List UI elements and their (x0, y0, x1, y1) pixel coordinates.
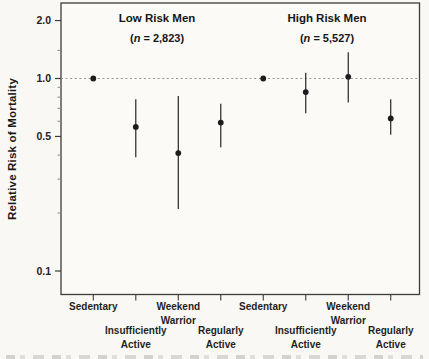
data-point (345, 74, 351, 80)
x-category-label: Sedentary (239, 301, 288, 312)
data-point (260, 76, 266, 82)
group-title: Low Risk Men (119, 12, 196, 24)
y-axis-tick-label: 0.1 (36, 265, 51, 277)
x-category-label: Active (121, 339, 151, 350)
x-category-label: Active (376, 339, 406, 350)
data-point (175, 150, 181, 156)
data-point (303, 89, 309, 95)
x-category-label: Weekend (156, 301, 200, 312)
chart-svg: 2.01.00.50.1SedentaryInsufficientlyActiv… (0, 0, 429, 359)
y-axis-tick-label: 2.0 (36, 14, 51, 26)
cropped-caption-fragment (6, 355, 423, 359)
y-axis-tick-label: 1.0 (36, 72, 51, 84)
group-n-label: (n = 5,527) (300, 32, 354, 44)
x-category-label: Warrior (331, 315, 366, 326)
y-axis-tick-label: 0.5 (36, 130, 51, 142)
group-title: High Risk Men (287, 12, 366, 24)
x-category-label: Regularly (198, 325, 244, 336)
plot-border (61, 3, 420, 295)
group-n-label: (n = 2,823) (130, 32, 184, 44)
x-category-label: Active (206, 339, 236, 350)
data-point (388, 116, 394, 122)
data-point (218, 120, 224, 126)
x-category-label: Warrior (161, 315, 196, 326)
x-category-label: Active (291, 339, 321, 350)
x-category-label: Regularly (368, 325, 414, 336)
x-category-label: Insufficiently (105, 325, 167, 336)
x-category-label: Sedentary (69, 301, 118, 312)
mortality-risk-figure: 2.01.00.50.1SedentaryInsufficientlyActiv… (0, 0, 429, 359)
y-axis-title: Relative Risk of Mortality (6, 78, 18, 220)
x-category-label: Insufficiently (275, 325, 337, 336)
data-point (133, 124, 139, 130)
data-point (90, 76, 96, 82)
x-category-label: Weekend (326, 301, 370, 312)
